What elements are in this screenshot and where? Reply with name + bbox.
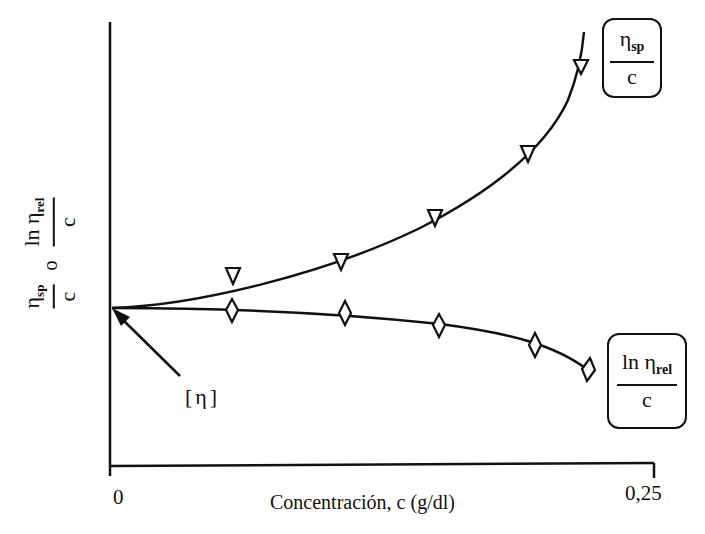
ylabel-conjunction: o bbox=[38, 261, 61, 271]
x-axis-title: Concentración, c (g/dl) bbox=[270, 491, 455, 514]
legend-sp-top: η bbox=[620, 26, 632, 51]
legend-rel-bottom: c bbox=[642, 389, 652, 411]
ylabel-term1-sub: sp bbox=[32, 285, 47, 297]
legend-sp-bottom: c bbox=[627, 66, 637, 88]
chart-canvas bbox=[0, 0, 705, 534]
legend-rel-top: ln η bbox=[622, 349, 656, 374]
legend-rel-sub: rel bbox=[656, 362, 672, 377]
ylabel-term2-sub: rel bbox=[32, 198, 47, 213]
ylabel-term1-bottom: c bbox=[57, 292, 79, 302]
diamond-marker bbox=[582, 358, 595, 381]
diamond-marker bbox=[433, 314, 445, 337]
x-axis bbox=[110, 463, 654, 466]
diamond-marker bbox=[339, 301, 351, 325]
curve-eta-sp bbox=[112, 32, 584, 308]
legend-ln-eta-rel: ln ηrel c bbox=[607, 333, 687, 429]
legend-sp-sub: sp bbox=[631, 39, 644, 54]
intrinsic-arrow-shaft bbox=[120, 317, 180, 376]
ylabel-eta-sp-fraction: ηsp c bbox=[21, 285, 79, 309]
diamond-marker bbox=[529, 333, 541, 357]
ylabel-term1-top: η bbox=[19, 297, 44, 309]
y-axis-label: ηsp c o ln ηrel c bbox=[14, 178, 86, 328]
legend-eta-sp: ηsp c bbox=[602, 18, 662, 98]
intrinsic-viscosity-label: [η] bbox=[185, 384, 220, 410]
x-tick-0: 0 bbox=[113, 485, 124, 510]
diamond-marker bbox=[226, 299, 238, 322]
x-tick-max: 0,25 bbox=[625, 481, 662, 506]
markers-eta-sp bbox=[226, 60, 588, 284]
ylabel-term2-bottom: c bbox=[57, 217, 79, 227]
ylabel-ln-eta-rel-fraction: ln ηrel c bbox=[21, 198, 79, 247]
ylabel-term2-top: ln η bbox=[19, 212, 44, 246]
triangle-marker bbox=[226, 268, 240, 284]
